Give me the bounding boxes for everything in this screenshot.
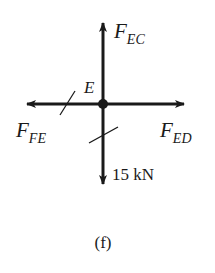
free-body-diagram: E FEC FFE FED 15 kN (f) (0, 0, 215, 273)
joint-label: E (83, 78, 95, 97)
force-label-right: FED (159, 118, 192, 146)
figure-caption: (f) (95, 233, 112, 252)
force-label-up: FEC (113, 19, 145, 47)
joint-node (98, 99, 108, 109)
diagram-svg: E FEC FFE FED 15 kN (f) (0, 0, 215, 273)
load-label: 15 kN (112, 165, 154, 184)
force-label-left: FFE (15, 118, 46, 146)
